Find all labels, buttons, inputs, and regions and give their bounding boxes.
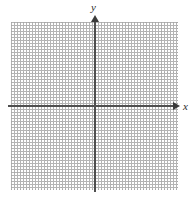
x-axis-label: x [183, 101, 188, 112]
arrow-right-icon [173, 102, 180, 110]
y-axis-line [94, 20, 96, 192]
coordinate-plane-figure: x y [0, 0, 193, 204]
arrow-up-icon [91, 15, 99, 22]
x-axis-line [8, 105, 175, 107]
y-axis-label: y [91, 2, 96, 13]
